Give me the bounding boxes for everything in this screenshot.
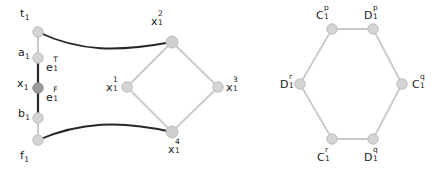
label-C1r: Cr1 (317, 150, 330, 163)
node-D1p (368, 24, 378, 34)
figure-canvas: t1 a1 x1 b1 f1 eT1 eF1 x11 x21 x31 x41 C… (0, 0, 442, 174)
edge-D1p-C1q (373, 29, 402, 84)
diamond-nodes (122, 36, 223, 138)
label-x1-2: x21 (151, 14, 163, 27)
node-D1q (368, 134, 378, 144)
node-C1r (327, 134, 337, 144)
node-x1 (33, 83, 43, 93)
node-x1-3 (213, 82, 223, 92)
label-D1q: Dq1 (364, 150, 377, 163)
label-e1-false: eF1 (46, 90, 58, 103)
diamond-edges (127, 42, 218, 132)
label-x1-3: x31 (226, 80, 238, 93)
label-C1q: Cq1 (412, 77, 425, 90)
node-t1 (33, 27, 43, 37)
variable-gadget-curves (38, 32, 172, 140)
label-x1-1: x11 (106, 80, 118, 93)
label-C1p: Cp1 (316, 8, 329, 21)
node-a1 (33, 53, 43, 63)
label-x1: x1 (17, 78, 28, 89)
hexagon-edges (300, 29, 402, 139)
label-D1r: Dr1 (280, 77, 293, 90)
curve-f1-to-x1-4 (38, 124, 172, 140)
edge-x1-1-x1-2 (127, 42, 172, 87)
label-x1-4: x41 (168, 142, 180, 155)
curve-t1-to-x1-2 (38, 32, 172, 49)
node-D1r (295, 79, 305, 89)
edge-x1-2-x1-3 (172, 42, 218, 87)
node-C1p (327, 24, 337, 34)
node-x1-2 (166, 36, 178, 48)
label-f1: f1 (20, 150, 29, 161)
edge-x1-3-x1-4 (172, 87, 218, 132)
node-C1q (397, 79, 407, 89)
edge-C1q-D1q (373, 84, 402, 139)
node-f1 (33, 135, 43, 145)
label-t1: t1 (20, 8, 29, 19)
label-e1-true: eT1 (46, 60, 58, 73)
edge-D1r-C1p (300, 29, 332, 84)
edge-C1r-D1r (300, 84, 332, 139)
hexagon-nodes (295, 24, 407, 144)
label-b1: b1 (18, 108, 30, 119)
label-a1: a1 (18, 47, 30, 58)
node-x1-1 (122, 82, 132, 92)
label-D1p: Dp1 (364, 8, 377, 21)
node-b1 (33, 113, 43, 123)
